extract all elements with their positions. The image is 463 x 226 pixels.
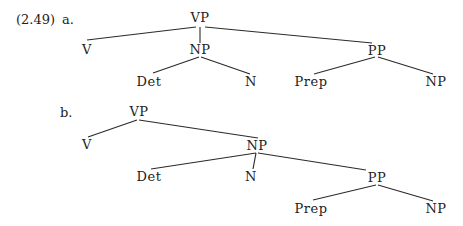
tree-a-vp-node: VP: [190, 11, 209, 25]
tree-b-det-node: Det: [137, 170, 162, 184]
tree-b-v-node: V: [82, 138, 92, 152]
tree-a-n-node: N: [245, 75, 257, 89]
tree-b-prep-node: Prep: [295, 202, 328, 216]
tree-b-pp-node: PP: [368, 171, 387, 185]
tree-a-det-node: Det: [137, 75, 162, 89]
tree-a-label: a.: [62, 13, 74, 27]
tree-a-prep-node: Prep: [295, 75, 328, 89]
tree-a-np-node: NP: [189, 43, 210, 57]
tree-b-n-node: N: [245, 170, 257, 184]
tree-b-np2-node: NP: [425, 202, 446, 216]
tree-b-label: b.: [60, 106, 72, 120]
syntax-tree-figure: (2.49) a. VP V NP PP Det N Prep NP b. VP…: [0, 0, 463, 226]
tree-a-np2-node: NP: [425, 75, 446, 89]
tree-b-np-node: NP: [246, 139, 267, 153]
example-number: (2.49): [16, 13, 55, 27]
tree-a-pp-node: PP: [368, 44, 387, 58]
tree-b-vp-node: VP: [129, 105, 148, 119]
tree-a-v-node: V: [82, 43, 92, 57]
